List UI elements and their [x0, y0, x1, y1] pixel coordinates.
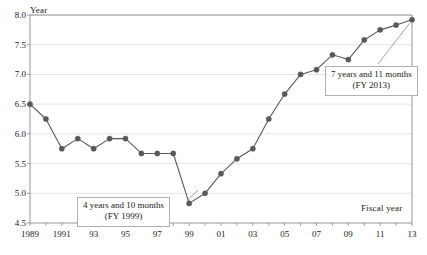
line-chart-plot	[0, 0, 427, 255]
data-point-markers	[27, 17, 414, 206]
data-point	[91, 146, 96, 151]
annotation-low-line1: 4 years and 10 months	[83, 200, 164, 210]
data-point	[43, 116, 48, 121]
data-point	[75, 136, 80, 141]
data-point	[59, 146, 64, 151]
data-point	[362, 37, 367, 42]
data-point	[378, 27, 383, 32]
data-point	[27, 102, 32, 107]
data-point	[314, 67, 319, 72]
data-point	[393, 23, 398, 28]
data-point	[298, 72, 303, 77]
data-point	[250, 146, 255, 151]
annotation-high-line2: (FY 2013)	[331, 80, 412, 91]
data-point	[346, 57, 351, 62]
data-point	[409, 17, 414, 22]
annotation-high-line1: 7 years and 11 months	[331, 69, 412, 79]
data-point	[155, 151, 160, 156]
data-point	[139, 151, 144, 156]
data-point	[266, 116, 271, 121]
data-point	[330, 52, 335, 57]
annotation-low-line2: (FY 1999)	[83, 211, 164, 222]
annotation-high: 7 years and 11 months (FY 2013)	[325, 66, 418, 96]
data-point	[123, 136, 128, 141]
chart-container: Year Fiscal year 8.07.57.06.56.05.55.04.…	[0, 0, 427, 255]
annotation-low: 4 years and 10 months (FY 1999)	[77, 197, 170, 227]
gridlines	[30, 15, 412, 193]
data-point	[107, 136, 112, 141]
data-point	[171, 151, 176, 156]
data-point	[187, 201, 192, 206]
data-point	[282, 91, 287, 96]
data-point	[202, 191, 207, 196]
data-point	[218, 171, 223, 176]
axis-lines	[30, 15, 412, 223]
data-point	[234, 156, 239, 161]
